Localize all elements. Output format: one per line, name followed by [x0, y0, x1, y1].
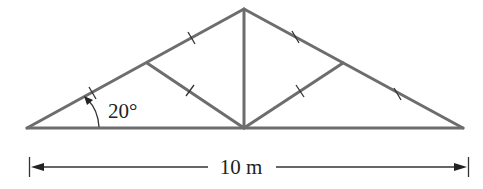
left-web [147, 63, 244, 128]
arrow-left-icon [31, 163, 44, 171]
right-web [244, 63, 343, 128]
truss-diagram: 20° 10 m [0, 0, 483, 189]
right-rafter [244, 9, 463, 128]
arrow-right-icon [454, 163, 467, 171]
angle-label: 20° [108, 99, 137, 123]
span-label: 10 m [220, 155, 263, 179]
angle-arc-arrow-icon [84, 96, 99, 127]
